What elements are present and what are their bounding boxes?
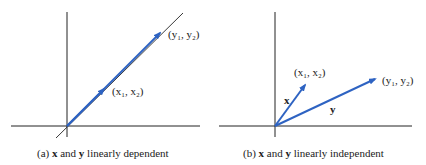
point-x-label: (x₁, x₂) <box>294 66 326 79</box>
figure: (x₁, x₂) (y₁, y₂) (a) x and y linearly d… <box>0 0 426 165</box>
panel-b: (x₁, x₂) (y₁, y₂) x y (b) x and y linear… <box>219 12 414 160</box>
caption-a: (a) x and y linearly dependent <box>37 147 169 160</box>
point-y-label: (y₁, y₂) <box>168 28 200 41</box>
vector-y <box>275 79 375 126</box>
caption-b: (b) x and y linearly independent <box>243 147 384 160</box>
panel-a: (x₁, x₂) (y₁, y₂) (a) x and y linearly d… <box>11 12 200 160</box>
point-x-label: (x₁, x₂) <box>112 85 144 98</box>
vector-x <box>67 89 104 126</box>
vector-x-label: x <box>284 94 290 106</box>
point-y-label: (y₁, y₂) <box>382 74 414 87</box>
vector-y-label: y <box>330 103 336 115</box>
